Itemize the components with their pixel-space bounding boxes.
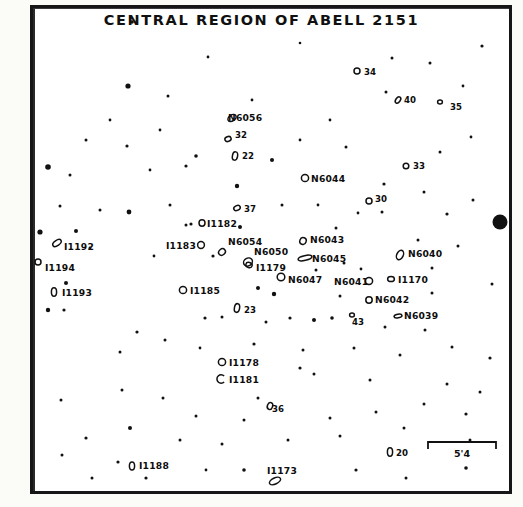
scale-bar-label: 5'4 (454, 448, 471, 459)
bright-star (493, 215, 508, 230)
galaxy-marker (354, 68, 360, 74)
field-star (472, 199, 475, 202)
object-label: 22 (242, 151, 254, 161)
field-star (128, 426, 132, 430)
field-star (121, 389, 124, 392)
field-star (384, 326, 387, 329)
bright-star-layer (493, 215, 508, 230)
field-star (265, 321, 268, 324)
field-star (479, 391, 482, 394)
labeled-object: I1182 (199, 218, 237, 229)
field-star (64, 281, 68, 285)
galaxy-marker (52, 238, 63, 248)
galaxy-marker (301, 174, 308, 181)
object-label: N6040 (408, 248, 442, 259)
labeled-object: 34 (354, 67, 376, 77)
labeled-object: I1183 (166, 240, 204, 251)
field-star (167, 95, 170, 98)
labeled-object: N6056 (227, 112, 263, 123)
labeled-object: 43 (350, 313, 364, 327)
labeled-object: N6044 (301, 173, 345, 184)
object-label: N6050 (254, 246, 288, 257)
object-label: I1185 (190, 285, 220, 296)
object-label: I1194 (45, 262, 75, 273)
field-star (185, 224, 188, 227)
field-star (299, 42, 302, 45)
labeled-object: 32 (224, 130, 247, 142)
field-star (60, 399, 63, 402)
galaxy-marker (179, 286, 186, 293)
field-star (235, 184, 239, 188)
field-star (381, 211, 384, 214)
field-star (464, 412, 467, 415)
field-star (375, 411, 378, 414)
field-star (45, 164, 51, 170)
field-star (354, 468, 357, 471)
field-star (431, 292, 434, 295)
labeled-object: N6041 (334, 276, 373, 287)
object-label: I1173 (267, 465, 297, 476)
labeled-object: 23 (234, 303, 256, 315)
field-star (153, 255, 156, 258)
field-star (205, 469, 208, 472)
galaxy-marker (234, 303, 241, 313)
field-star (257, 397, 260, 400)
field-star (238, 225, 242, 229)
field-star (270, 158, 274, 162)
field-star (243, 419, 246, 422)
labeled-object: 33 (403, 161, 425, 171)
object-label: I1181 (229, 374, 259, 385)
field-star (451, 346, 454, 349)
galaxy-marker (299, 237, 307, 246)
galaxy-marker (224, 136, 232, 143)
field-star (445, 212, 448, 215)
field-star (221, 316, 224, 319)
object-label: I1192 (64, 241, 94, 252)
field-star (312, 318, 316, 322)
labeled-object: I1193 (51, 287, 92, 298)
object-label: 43 (352, 317, 364, 327)
object-label: N6039 (404, 310, 438, 321)
field-star (211, 254, 214, 257)
galaxy-marker (232, 151, 239, 160)
galaxy-marker (298, 254, 313, 262)
field-star (162, 397, 165, 400)
galaxy-marker (199, 220, 205, 226)
field-star (417, 239, 420, 242)
object-label: I1188 (139, 460, 169, 471)
galaxy-marker (233, 204, 241, 211)
object-label: 35 (450, 102, 462, 112)
field-star (179, 439, 182, 442)
object-label: 32 (235, 130, 247, 140)
labeled-object: 40 (394, 95, 416, 105)
labeled-galaxy-layer: N605632223440353330N604437I1182I1183N605… (35, 67, 462, 486)
galaxy-marker (277, 273, 285, 281)
galaxy-marker (438, 100, 443, 104)
field-star (130, 20, 134, 24)
object-label: I1178 (229, 357, 259, 368)
object-label: N6045 (312, 253, 346, 264)
labeled-object: 22 (232, 151, 254, 161)
labeled-object: N6042 (366, 294, 409, 305)
object-label: I1182 (207, 218, 237, 229)
field-star (330, 316, 334, 320)
field-star (423, 403, 426, 406)
field-star (59, 205, 62, 208)
sky-plot-canvas: N605632223440353330N604437I1182I1183N605… (0, 0, 523, 507)
object-label: I1193 (62, 287, 92, 298)
galaxy-marker (218, 358, 225, 365)
field-star (127, 210, 132, 215)
labeled-object: N6040 (395, 248, 442, 261)
object-label: 40 (404, 95, 416, 105)
labeled-object: 35 (438, 100, 462, 112)
object-label: I1183 (166, 240, 196, 251)
field-star (169, 204, 172, 207)
field-star (335, 227, 338, 230)
labeled-object: N6047 (277, 273, 322, 285)
field-star (109, 119, 112, 122)
object-label: N6042 (375, 294, 409, 305)
galaxy-marker (394, 314, 403, 319)
field-star (391, 57, 394, 60)
field-star (439, 151, 442, 154)
field-star (221, 443, 224, 446)
